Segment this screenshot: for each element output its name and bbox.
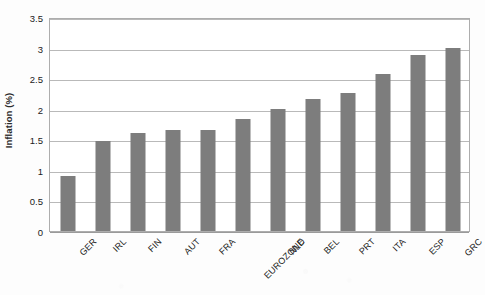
bar[interactable] (306, 99, 321, 231)
x-tick-label: GRC (463, 236, 485, 258)
bar-slot (155, 19, 190, 231)
bar[interactable] (95, 141, 110, 231)
y-tick-label: 0 (38, 227, 43, 238)
x-tick-label: ITA (391, 236, 408, 253)
bar-slot (225, 19, 260, 231)
bar-slot (366, 19, 401, 231)
y-tick-label: 1.5 (30, 135, 43, 146)
bars-layer (50, 19, 469, 231)
bar[interactable] (130, 133, 145, 231)
bar[interactable] (341, 93, 356, 231)
bar[interactable] (411, 55, 426, 231)
y-tick-label: 0.5 (30, 196, 43, 207)
x-tick-label: NLD (287, 236, 307, 256)
bar-slot (190, 19, 225, 231)
plot-area (49, 18, 470, 232)
bar[interactable] (446, 48, 461, 231)
bar-slot (331, 19, 366, 231)
y-tick-label: 2 (38, 104, 43, 115)
bar[interactable] (200, 130, 215, 231)
bar-slot (50, 19, 85, 231)
y-tick-label: 1 (38, 165, 43, 176)
y-axis-title: Inflation (%) (0, 0, 18, 240)
x-tick-label: GER (77, 236, 98, 257)
y-axis-title-text: Inflation (%) (4, 92, 15, 148)
y-tick-label: 2.5 (30, 74, 43, 85)
bar[interactable] (271, 109, 286, 231)
bar-slot (436, 19, 471, 231)
x-tick-label: FRA (217, 236, 237, 256)
bar-slot (401, 19, 436, 231)
x-axis-tick-labels: GERIRLFINAUTFRAEUROZONENLDBELPRTITAESPGR… (49, 232, 470, 294)
bar-slot (85, 19, 120, 231)
bar[interactable] (165, 130, 180, 231)
bar[interactable] (60, 176, 75, 231)
x-tick-label: BEL (322, 236, 342, 256)
x-tick-label: PRT (357, 236, 377, 256)
x-tick-label: ESP (427, 236, 447, 256)
y-tick-label: 3 (38, 43, 43, 54)
bar[interactable] (376, 74, 391, 231)
bar[interactable] (235, 119, 250, 231)
x-tick-label: FIN (146, 236, 164, 254)
bar-slot (261, 19, 296, 231)
bar-slot (296, 19, 331, 231)
inflation-bar-chart: Inflation (%) 00.511.522.533.5 GERIRLFIN… (0, 0, 485, 295)
y-tick-label: 3.5 (30, 13, 43, 24)
x-tick-label: AUT (182, 236, 202, 256)
y-axis-tick-labels: 00.511.522.533.5 (18, 18, 47, 232)
x-tick-label: IRL (110, 236, 127, 253)
bar-slot (120, 19, 155, 231)
